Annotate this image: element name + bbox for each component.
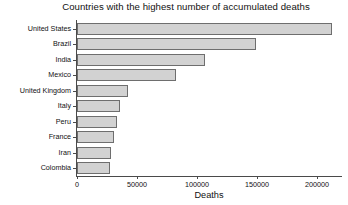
y-tick-mark-1 <box>73 29 76 30</box>
x-tick-mark-3 <box>197 176 198 179</box>
bar-rect <box>77 85 128 97</box>
x-tick-label-2: 50000 <box>127 180 147 189</box>
y-tick-label-2: Brazil <box>0 39 71 48</box>
bar-4 <box>77 68 341 84</box>
y-tick-label-4: Mexico <box>0 70 71 79</box>
x-tick-mark-5 <box>317 176 318 179</box>
y-tick-mark-4 <box>73 75 76 76</box>
y-tick-label-1: United States <box>0 24 71 33</box>
bar-chart: Countries with the highest number of acc… <box>0 0 348 205</box>
y-tick-mark-10 <box>73 168 76 169</box>
bars-layer <box>77 21 341 176</box>
x-tick-mark-4 <box>257 176 258 179</box>
y-tick-mark-8 <box>73 137 76 138</box>
bar-5 <box>77 83 341 99</box>
y-tick-mark-9 <box>73 153 76 154</box>
x-tick-label-3: 100000 <box>185 180 209 189</box>
y-tick-label-6: Italy <box>0 101 71 110</box>
bar-6 <box>77 99 341 115</box>
y-tick-label-9: Iran <box>0 148 71 157</box>
bar-rect <box>77 147 111 159</box>
y-tick-mark-2 <box>73 44 76 45</box>
bar-10 <box>77 161 341 177</box>
y-tick-label-8: France <box>0 132 71 141</box>
bar-rect <box>77 38 256 50</box>
bar-rect <box>77 116 117 128</box>
chart-title: Countries with the highest number of acc… <box>0 1 348 13</box>
bar-3 <box>77 52 341 68</box>
y-tick-mark-7 <box>73 122 76 123</box>
bar-rect <box>77 162 110 174</box>
x-tick-label-4: 150000 <box>245 180 269 189</box>
bar-2 <box>77 37 341 53</box>
bar-8 <box>77 130 341 146</box>
y-tick-label-5: United Kingdom <box>0 86 71 95</box>
x-tick-label-1: 0 <box>75 180 79 189</box>
bar-9 <box>77 145 341 161</box>
x-tick-mark-1 <box>77 176 78 179</box>
bar-rect <box>77 23 332 35</box>
y-tick-mark-6 <box>73 106 76 107</box>
y-tick-label-3: India <box>0 55 71 64</box>
bar-rect <box>77 54 205 66</box>
x-tick-mark-2 <box>137 176 138 179</box>
y-tick-label-7: Peru <box>0 117 71 126</box>
bar-rect <box>77 100 120 112</box>
bar-rect <box>77 69 176 81</box>
bar-7 <box>77 114 341 130</box>
y-tick-mark-5 <box>73 91 76 92</box>
bar-rect <box>77 131 114 143</box>
y-tick-mark-3 <box>73 60 76 61</box>
bar-1 <box>77 21 341 37</box>
plot-area <box>77 21 341 176</box>
x-tick-label-5: 200000 <box>305 180 329 189</box>
y-tick-label-10: Colombia <box>0 163 71 172</box>
x-axis-title: Deaths <box>77 190 341 201</box>
